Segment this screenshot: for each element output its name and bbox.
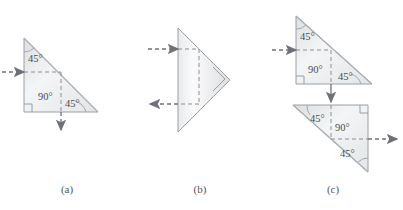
angle-label-c1-3: 45°	[338, 71, 353, 82]
angle-label-c1-1: 45°	[300, 31, 315, 42]
panel-b	[148, 28, 230, 132]
angle-label-c2-2: 90°	[335, 122, 350, 133]
panel-c: 45° 90° 45° 45° 90° 45°	[272, 16, 397, 172]
prism-triangle	[178, 28, 230, 132]
angle-label-c2-3: 45°	[340, 148, 355, 159]
caption-b: (b)	[180, 183, 220, 195]
panel-b-prism	[178, 28, 230, 132]
angle-label-a-2: 90°	[38, 91, 53, 102]
angle-label-a-3: 45°	[65, 98, 80, 109]
angle-label-a-1: 45°	[28, 53, 43, 64]
caption-c: (c)	[313, 183, 353, 195]
panel-a: 45° 90° 45°	[2, 38, 98, 130]
optics-prism-figure: 45° 90° 45° 45° 90° 45°	[0, 0, 403, 210]
angle-label-c2-1: 45°	[310, 113, 325, 124]
angle-label-c1-2: 90°	[308, 64, 323, 75]
caption-a: (a)	[47, 183, 87, 195]
